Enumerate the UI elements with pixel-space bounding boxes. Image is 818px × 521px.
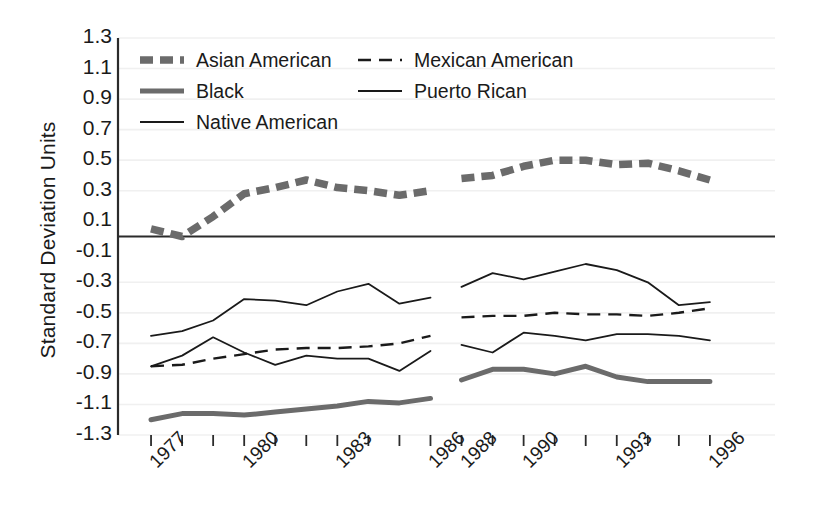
series-line xyxy=(151,180,431,237)
series-line xyxy=(462,160,710,180)
legend-label: Native American xyxy=(196,111,338,133)
series-line xyxy=(151,284,431,336)
chart-legend: Asian AmericanMexican AmericanBlackPuert… xyxy=(140,49,573,133)
data-series-layer xyxy=(151,160,710,420)
chart-plot-area: Asian AmericanMexican AmericanBlackPuert… xyxy=(0,0,818,521)
series-line xyxy=(151,336,431,367)
legend-label: Puerto Rican xyxy=(414,80,527,102)
legend-label: Asian American xyxy=(196,49,331,71)
legend-label: Mexican American xyxy=(414,49,573,71)
series-line xyxy=(151,337,431,371)
series-line xyxy=(151,398,431,419)
chart-figure: Standard Deviation Units 1.31.10.90.70.5… xyxy=(0,0,818,521)
series-line xyxy=(462,264,710,305)
legend-label: Black xyxy=(196,80,244,102)
